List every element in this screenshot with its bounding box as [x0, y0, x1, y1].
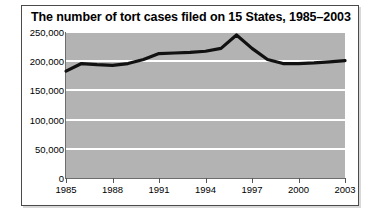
- line-series-tort-cases: [66, 35, 345, 71]
- data-series-layer: [0, 0, 368, 215]
- chart-figure: The number of tort cases filed on 15 Sta…: [0, 0, 368, 215]
